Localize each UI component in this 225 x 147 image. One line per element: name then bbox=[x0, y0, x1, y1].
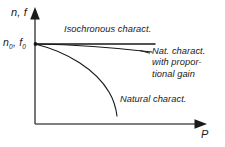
y-axis-label: n, f bbox=[11, 7, 27, 19]
y-axis-tick-label-n0-f0: n0, f0 bbox=[3, 37, 26, 51]
annotation-droop-line-3: tional gain bbox=[152, 69, 205, 80]
annotation-isochronous: Isochronous charact. bbox=[64, 25, 151, 35]
x-axis-label: P bbox=[201, 129, 209, 141]
annotation-droop-line-1: Nat. charact. bbox=[152, 46, 205, 57]
annotation-droop-line-2: with propor- bbox=[152, 57, 205, 68]
characteristic-curve-diagram: n, f n0, f0 P Isochronous charact. Nat. … bbox=[0, 0, 225, 147]
y-axis-arrowhead-icon bbox=[30, 7, 40, 20]
tick-f-subscript: 0 bbox=[22, 43, 26, 50]
curve-natural bbox=[35, 44, 117, 116]
tick-n-subscript: 0 bbox=[9, 43, 13, 50]
annotation-natural: Natural charact. bbox=[120, 95, 186, 105]
curve-droop-proportional bbox=[35, 44, 152, 52]
annotation-droop-proportional: Nat. charact. with propor- tional gain bbox=[152, 46, 205, 80]
